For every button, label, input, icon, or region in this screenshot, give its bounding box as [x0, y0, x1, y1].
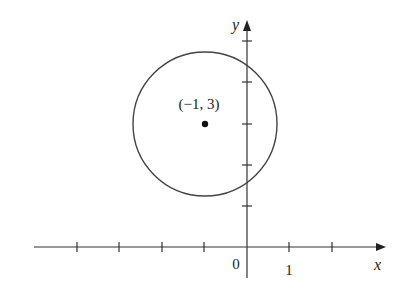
x-axis-arrow-icon	[376, 243, 386, 251]
x-axis-label: x	[373, 256, 381, 273]
center-label: (−1, 3)	[179, 96, 220, 113]
y-axis-label: y	[230, 16, 240, 34]
x-unit-label: 1	[285, 262, 293, 278]
origin-label: 0	[232, 256, 240, 272]
center-point	[202, 121, 208, 127]
coordinate-plane: (−1, 3) y x 0 1	[0, 0, 408, 294]
y-axis-arrow-icon	[243, 20, 251, 31]
